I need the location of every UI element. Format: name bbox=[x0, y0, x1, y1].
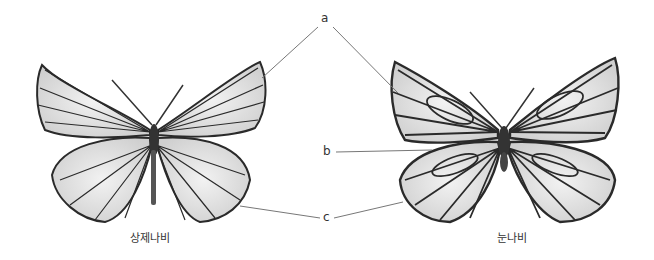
right-forewing-l bbox=[392, 62, 498, 143]
label-c: c bbox=[323, 211, 330, 223]
label-b: b bbox=[323, 145, 331, 157]
label-a: a bbox=[321, 12, 328, 24]
caption-left-specimen: 상제나비 bbox=[130, 233, 170, 244]
left-butterfly bbox=[37, 62, 265, 222]
right-butterfly bbox=[392, 58, 619, 222]
caption-right-specimen: 눈나비 bbox=[497, 233, 527, 244]
